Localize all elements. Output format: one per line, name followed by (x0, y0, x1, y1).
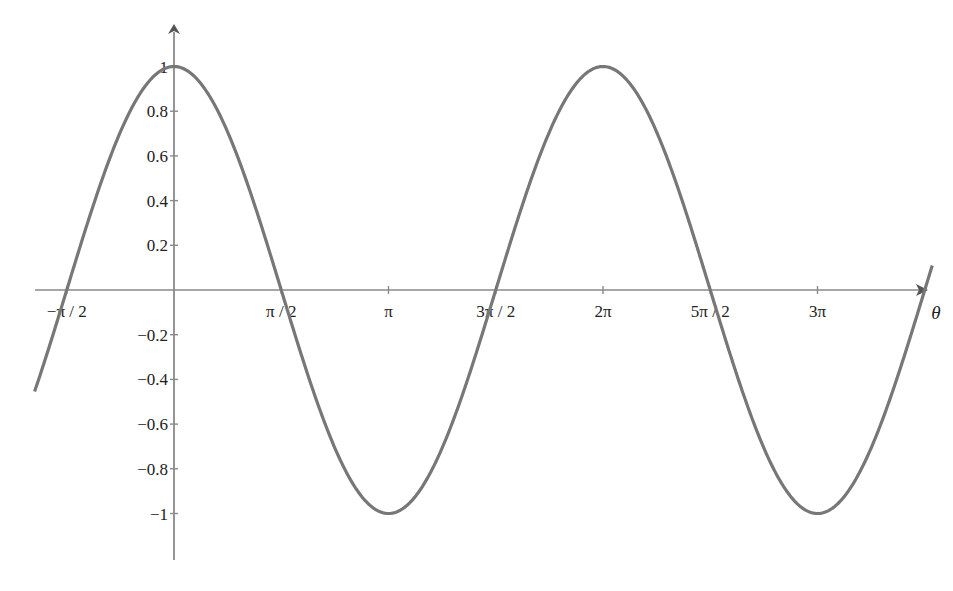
x-tick-label: 3π / 2 (476, 302, 515, 321)
y-tick-label: −1 (150, 505, 168, 524)
x-axis-title: θ (931, 302, 940, 323)
y-tick-label: −0.8 (137, 460, 168, 479)
y-tick-label: 0.2 (147, 236, 168, 255)
y-tick-label: −0.6 (137, 415, 168, 434)
x-tick-label: 2π (594, 302, 612, 321)
x-tick-label: −π / 2 (47, 302, 87, 321)
x-tick-label: π (384, 302, 393, 321)
x-tick-label: 3π (809, 302, 827, 321)
x-tick-label: π / 2 (266, 302, 296, 321)
y-tick-label: 0.8 (147, 102, 168, 121)
y-tick-label: −0.2 (137, 326, 168, 345)
y-tick-label: 0.6 (147, 147, 168, 166)
axes (35, 24, 928, 560)
cosine-chart: −π / 2π / 2π3π / 22π5π / 23π10.80.60.40.… (0, 0, 953, 591)
x-tick-label: 5π / 2 (691, 302, 730, 321)
y-tick-label: −0.4 (137, 370, 168, 389)
y-tick-label: 0.4 (147, 192, 169, 211)
